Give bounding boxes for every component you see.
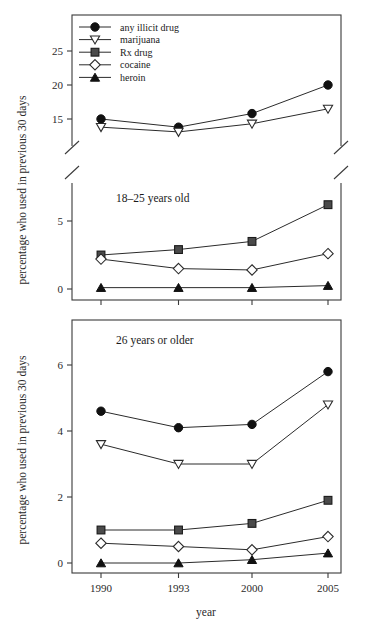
figure-labels: percentage who used in previous 30 daysp… bbox=[16, 95, 216, 619]
series-line-any-illicit-drug bbox=[101, 372, 328, 428]
plot-frame-top bbox=[72, 15, 341, 300]
svg-text:4: 4 bbox=[58, 425, 64, 437]
break-mask bbox=[337, 146, 345, 183]
series-line-heroin bbox=[101, 553, 328, 563]
svg-text:0: 0 bbox=[58, 557, 64, 569]
legend: any illicit drugmarijuanaRx drugcocaineh… bbox=[79, 22, 179, 83]
marker-open-diamond bbox=[247, 265, 257, 275]
y-axis-label-top: percentage who used in previous 30 days bbox=[16, 95, 29, 285]
marker-grey-square bbox=[248, 520, 256, 528]
legend-label-rx-drug: Rx drug bbox=[120, 47, 153, 58]
marker-filled-circle bbox=[174, 424, 182, 432]
svg-text:20: 20 bbox=[52, 79, 64, 91]
series-line-rx-drug bbox=[101, 205, 328, 255]
drug-use-figure: 0515202518–25 years oldany illicit drugm… bbox=[0, 0, 367, 628]
x-axis-label: year bbox=[196, 606, 216, 619]
series-line-marijuana bbox=[101, 405, 328, 464]
legend-label-heroin: heroin bbox=[120, 72, 146, 83]
marker-filled-circle bbox=[248, 109, 256, 117]
marker-grey-square bbox=[175, 246, 183, 254]
panel-26-older: 0246199019932000200526 years or older bbox=[58, 320, 342, 594]
legend-label-cocaine: cocaine bbox=[120, 59, 151, 70]
series-line-any-illicit-drug bbox=[101, 85, 328, 127]
legend-label-any-illicit-drug: any illicit drug bbox=[120, 22, 179, 33]
marker-open-down-triangle bbox=[174, 128, 183, 136]
plot-frame-bottom bbox=[72, 320, 341, 573]
svg-text:25: 25 bbox=[52, 45, 64, 57]
marker-grey-square bbox=[324, 496, 332, 504]
marker-filled-circle bbox=[324, 367, 332, 375]
series-line-rx-drug bbox=[101, 500, 328, 530]
marker-open-diamond bbox=[323, 248, 333, 258]
marker-open-diamond bbox=[247, 545, 257, 555]
marker-grey-square bbox=[324, 201, 332, 209]
x-tick-label-2005: 2005 bbox=[317, 582, 340, 594]
panel-18-25: 0515202518–25 years oldany illicit drugm… bbox=[52, 15, 348, 305]
marker-grey-square bbox=[175, 526, 183, 534]
x-tick-label-1993: 1993 bbox=[168, 582, 191, 594]
marker-filled-circle bbox=[248, 420, 256, 428]
svg-text:15: 15 bbox=[52, 113, 64, 125]
x-tick-label-1990: 1990 bbox=[90, 582, 113, 594]
break-mask bbox=[68, 146, 76, 183]
series-line-cocaine bbox=[101, 537, 328, 550]
panel-title-18-25: 18–25 years old bbox=[116, 192, 190, 205]
marker-open-diamond bbox=[173, 541, 183, 551]
marker-open-diamond bbox=[96, 538, 106, 548]
legend-label-marijuana: marijuana bbox=[120, 34, 161, 45]
marker-filled-circle bbox=[97, 115, 105, 123]
marker-grey-square bbox=[248, 238, 256, 246]
panel-title-26-older: 26 years or older bbox=[116, 334, 194, 347]
marker-open-diamond bbox=[90, 60, 100, 70]
marker-filled-circle bbox=[97, 407, 105, 415]
svg-text:2: 2 bbox=[58, 491, 64, 503]
marker-open-diamond bbox=[323, 531, 333, 541]
svg-text:5: 5 bbox=[58, 215, 64, 227]
marker-filled-circle bbox=[324, 81, 332, 89]
svg-text:6: 6 bbox=[58, 359, 64, 371]
series-line-heroin bbox=[101, 286, 328, 288]
marker-filled-circle bbox=[91, 23, 99, 31]
marker-grey-square bbox=[91, 48, 99, 56]
marker-open-down-triangle bbox=[323, 401, 332, 409]
marker-grey-square bbox=[97, 526, 105, 534]
series-line-cocaine bbox=[101, 254, 328, 270]
marker-open-diamond bbox=[173, 263, 183, 273]
svg-text:0: 0 bbox=[58, 283, 64, 295]
y-axis-label-bottom: percentage who used in previous 30 days bbox=[16, 355, 29, 545]
x-tick-label-2000: 2000 bbox=[241, 582, 264, 594]
